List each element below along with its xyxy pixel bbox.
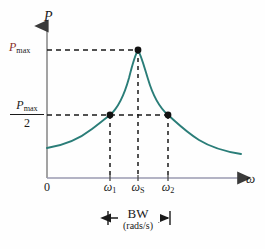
omegas-subscript: S <box>140 186 145 195</box>
x-axis-title: ω <box>246 172 255 185</box>
xtick-label-omegas: ωS <box>124 181 152 195</box>
half-power-upper-marker <box>165 112 172 119</box>
y-axis-title: P <box>44 10 53 24</box>
half-power-lower-marker <box>107 112 114 119</box>
omega1-subscript: 1 <box>112 186 116 195</box>
pmax-half-denominator: 2 <box>9 116 45 129</box>
pmax-subscript: max <box>16 46 30 55</box>
resonance-power-figure: P ω Pmax Pmax 2 0 ω1 ωS ω2 BW (rads/s) <box>0 0 265 249</box>
bandwidth-label: BW <box>119 207 157 220</box>
pmax-label: Pmax <box>9 41 30 55</box>
peak-marker <box>135 47 142 54</box>
omega2-subscript: 2 <box>170 186 174 195</box>
omega2-base: ω <box>162 180 170 194</box>
pmax-half-numerator-subscript: max <box>24 104 38 113</box>
omegas-base: ω <box>131 180 139 194</box>
omega1-base: ω <box>104 180 112 194</box>
pmax-half-numerator: Pmax <box>9 99 45 114</box>
bandwidth-units-label: (rads/s) <box>114 221 162 231</box>
pmax-half-numerator-base: P <box>16 98 23 112</box>
origin-label: 0 <box>33 181 61 193</box>
pmax-half-label: Pmax 2 <box>9 99 45 129</box>
xtick-label-omega2: ω2 <box>154 181 182 195</box>
resonance-curve <box>47 50 241 154</box>
fraction-bar <box>10 114 44 115</box>
xtick-label-omega1: ω1 <box>96 181 124 195</box>
